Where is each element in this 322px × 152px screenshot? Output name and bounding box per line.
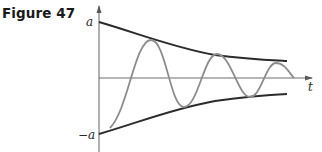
damped-oscillation-diagram: a −a t [0, 0, 322, 152]
upper-envelope-curve [99, 22, 287, 61]
y-bottom-label: −a [78, 128, 95, 142]
y-top-label: a [86, 15, 93, 29]
x-axis-label: t [308, 80, 313, 94]
